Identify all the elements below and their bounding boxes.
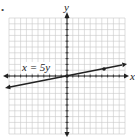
x-axis-label: x — [129, 70, 135, 82]
bullet-marker: • — [1, 5, 4, 15]
y-axis-label: y — [63, 1, 69, 13]
point-origin — [65, 74, 69, 78]
equation-label: x = 5y — [21, 61, 50, 73]
coordinate-graph: • x y x = 5y — [0, 0, 135, 137]
point-5-1 — [102, 67, 106, 71]
